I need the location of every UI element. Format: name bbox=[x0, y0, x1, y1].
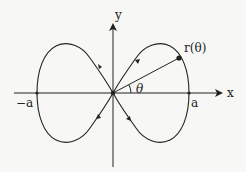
point-r-theta bbox=[176, 55, 181, 60]
radius-vector bbox=[113, 58, 179, 93]
direction-arrow-icon bbox=[135, 59, 140, 64]
point-a bbox=[187, 91, 190, 94]
origin-point bbox=[111, 91, 115, 95]
theta-label: θ bbox=[136, 82, 144, 96]
a-label: a bbox=[191, 96, 198, 110]
y-axis-label: y bbox=[114, 8, 122, 22]
r-theta-label: r(θ) bbox=[184, 41, 206, 55]
x-axis-label: x bbox=[227, 86, 234, 100]
neg-a-label: −a bbox=[16, 96, 33, 110]
angle-arc bbox=[129, 85, 131, 93]
direction-arrow-icon bbox=[96, 114, 101, 119]
direction-arrow-icon bbox=[98, 64, 102, 69]
point-neg-a bbox=[35, 91, 38, 94]
figure-eight-diagram: x y a −a r(θ) θ bbox=[0, 0, 246, 172]
